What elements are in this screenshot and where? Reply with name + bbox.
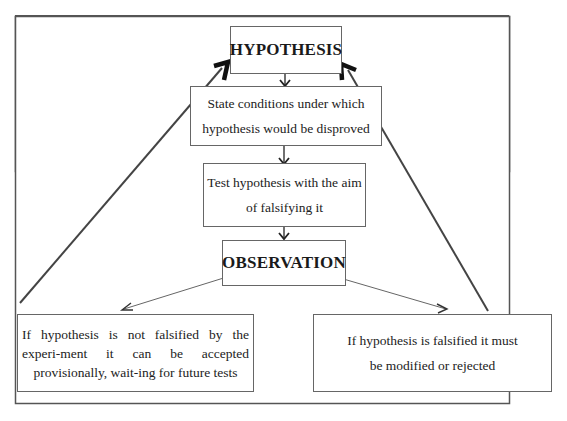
hypothesis-node: HYPOTHESIS	[230, 26, 342, 74]
observation-node: OBSERVATION	[222, 240, 346, 286]
observation-label: OBSERVATION	[222, 253, 346, 273]
hypothesis-label: HYPOTHESIS	[230, 40, 343, 60]
falsified-line1: If hypothesis is falsified it must	[347, 328, 518, 353]
state-conditions-line1: State conditions under which	[207, 91, 364, 116]
state-conditions-node: State conditions under which hypothesis …	[190, 86, 382, 146]
not-falsified-text: If hypothesis is not falsified by the ex…	[18, 325, 253, 382]
test-hypothesis-node: Test hypothesis with the aim of falsifyi…	[203, 163, 366, 227]
not-falsified-outcome-node: If hypothesis is not falsified by the ex…	[17, 314, 254, 392]
falsified-outcome-node: If hypothesis is falsified it must be mo…	[313, 314, 552, 392]
state-conditions-line2: hypothesis would be disproved	[202, 116, 370, 141]
falsified-line2: be modified or rejected	[370, 353, 496, 378]
test-hypothesis-line1: Test hypothesis with the aim	[207, 170, 361, 195]
test-hypothesis-line2: of falsifying it	[246, 195, 323, 220]
